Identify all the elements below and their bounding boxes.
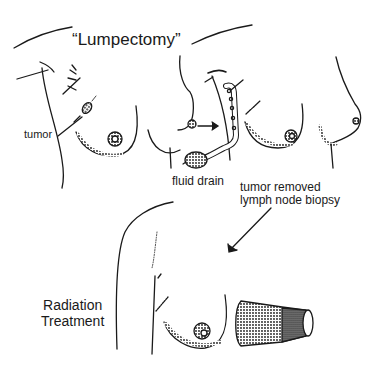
- tumor-removed-line2: lymph node biopsy: [240, 194, 340, 207]
- panel-post-op: [245, 57, 361, 168]
- radiation-treatment-label: Radiation Treatment: [41, 297, 104, 329]
- fluid-drain-label: fluid drain: [172, 175, 224, 188]
- panel-radiation: [116, 202, 313, 354]
- tumor-removed-label: tumor removed lymph node biopsy: [240, 181, 340, 207]
- tumor-label: tumor: [24, 128, 52, 140]
- radiation-line2: Treatment: [41, 313, 104, 329]
- panel-tumor: [14, 27, 180, 188]
- arrow-to-radiation: [230, 208, 271, 250]
- radiation-line1: Radiation: [41, 297, 104, 313]
- panel-fluid-drain: [178, 25, 252, 168]
- figure-title: “Lumpectomy”: [72, 31, 181, 50]
